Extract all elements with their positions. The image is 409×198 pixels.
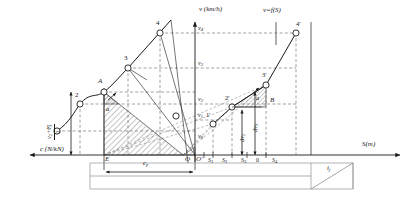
v-tick-v3: v3 xyxy=(198,60,203,68)
marker-point-4 xyxy=(157,30,163,36)
label-point-3: 3 xyxy=(124,55,128,62)
s-tick-S1: S1 xyxy=(208,157,213,165)
curve-equation-label: v=f(S) xyxy=(263,7,281,14)
label-point-1p: 1' xyxy=(206,112,210,119)
grade-label: ij xyxy=(327,165,330,173)
marker-point-1p xyxy=(210,121,216,127)
right-curve-markers xyxy=(210,30,299,127)
cp-label: cp xyxy=(143,160,148,168)
marker-point-2 xyxy=(77,101,83,107)
label-point-4p: 4' xyxy=(296,21,300,28)
label-pole-E: E xyxy=(105,156,109,163)
label-point-2p: 2' xyxy=(225,95,229,102)
s-tick-S4: S4 xyxy=(272,157,277,165)
marker-point-mid xyxy=(173,113,179,119)
label-point-4: 4 xyxy=(156,20,160,27)
marker-point-A xyxy=(101,89,107,95)
grade-profile-box xyxy=(90,163,353,189)
v-tick-v1: v1 xyxy=(198,112,203,120)
mean-velocity-numerator: v2+v3 xyxy=(46,124,55,140)
angle-label-left: a xyxy=(106,106,109,113)
marker-point-3 xyxy=(125,65,131,71)
angle-label-right: a xyxy=(256,95,259,102)
mean-velocity-label: v2+v3 2 xyxy=(46,140,62,157)
s-axis-label: S(m) xyxy=(362,141,375,148)
label-origin-O: O xyxy=(185,156,190,163)
label-point-B: B xyxy=(270,97,274,104)
s-tick-S3: S3 xyxy=(241,157,246,165)
right-vfs-curve xyxy=(213,33,296,124)
label-point-2: 2 xyxy=(75,92,79,99)
label-point-3p: 3' xyxy=(262,72,266,79)
diagram-canvas: v (km/h) v=f(S) c (N/kN) S(m) v4 v3 v2 v… xyxy=(0,0,409,198)
delta-v-inner-label: Δv2 xyxy=(240,142,248,149)
s-tick-zero: 0 xyxy=(256,157,259,163)
v-tick-v4: v4 xyxy=(198,25,203,33)
delta-v-outer-label: Δv3 xyxy=(253,132,261,139)
diagram-vector-layer xyxy=(0,0,409,198)
mean-velocity-denominator: 2 xyxy=(55,124,61,140)
label-point-A: A xyxy=(98,78,102,85)
v-tick-v0: v0 xyxy=(198,133,203,141)
v-tick-v2: v2 xyxy=(198,96,203,104)
marker-point-3p xyxy=(263,82,269,88)
marker-point-4p xyxy=(293,30,299,36)
label-origin-Oprime: O' xyxy=(196,156,203,163)
v-axis-label: v (km/h) xyxy=(199,6,222,13)
s-tick-S2: S2 xyxy=(222,157,227,165)
